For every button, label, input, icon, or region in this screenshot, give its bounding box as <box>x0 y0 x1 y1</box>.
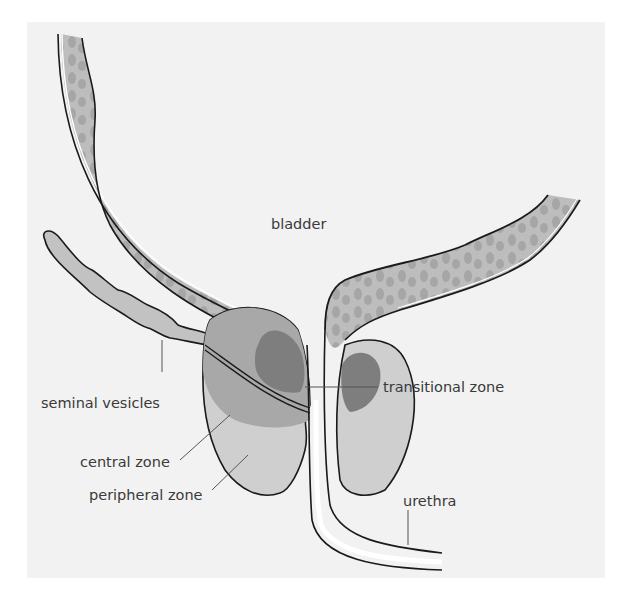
label-bladder: bladder <box>271 216 326 232</box>
label-central-zone: central zone <box>80 454 170 470</box>
label-urethra: urethra <box>403 493 456 509</box>
label-seminal-vesicles: seminal vesicles <box>41 395 160 411</box>
label-transitional-zone: transitional zone <box>383 379 504 395</box>
label-peripheral-zone: peripheral zone <box>89 487 203 503</box>
prostate-zones-diagram: bladder seminal vesicles central zone pe… <box>0 0 617 598</box>
bladder-wall-right <box>325 195 580 348</box>
prostate-right-lobe <box>337 340 415 495</box>
prostate-left-lobe <box>203 308 310 496</box>
